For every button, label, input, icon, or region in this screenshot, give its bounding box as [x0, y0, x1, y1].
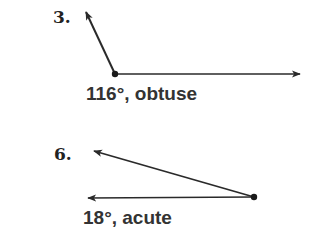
angle-label-3: 116°, obtuse: [86, 84, 197, 103]
ray-3-upper: [86, 12, 115, 74]
angle-figures: [0, 0, 323, 230]
angle-figure-6: [88, 151, 257, 200]
ray-6-upper: [94, 151, 254, 197]
vertex-point-6: [251, 194, 257, 200]
angle-worksheet: 3. 116°, obtuse 6. 18°, acute: [0, 0, 323, 230]
ray-6-lower: [88, 197, 254, 198]
problem-number-6: 6.: [54, 146, 72, 163]
vertex-point-3: [112, 71, 118, 77]
angle-label-6: 18°, acute: [83, 208, 172, 227]
angle-figure-3: [86, 12, 300, 77]
